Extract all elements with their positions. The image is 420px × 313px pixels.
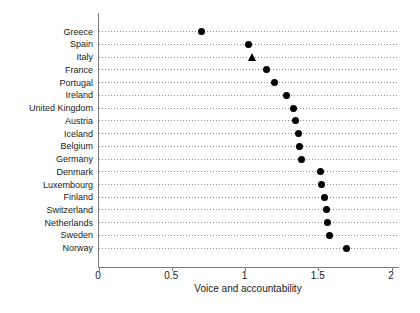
- gridline-luxembourg: [99, 184, 399, 185]
- dot-marker-finland: [321, 194, 328, 201]
- x-axis-title: Voice and accountability: [98, 283, 398, 294]
- y-axis-label-luxembourg: Luxembourg: [0, 179, 93, 191]
- dot-marker-united-kingdom: [290, 105, 297, 112]
- x-tick-label-2: 2: [374, 270, 408, 282]
- y-axis-label-iceland: Iceland: [0, 128, 93, 140]
- dot-marker-greece: [198, 28, 205, 35]
- gridline-switzerland: [99, 209, 399, 210]
- y-axis-label-italy: Italy: [0, 51, 93, 63]
- x-tick-label-1: 1: [228, 270, 262, 282]
- dot-marker-belgium: [296, 143, 303, 150]
- y-axis-label-portugal: Portugal: [0, 77, 93, 89]
- dot-marker-switzerland: [323, 206, 330, 213]
- gridline-netherlands: [99, 222, 399, 223]
- plot-area: [98, 13, 399, 268]
- gridline-france: [99, 69, 399, 70]
- dot-marker-iceland: [295, 130, 302, 137]
- dot-marker-germany: [298, 156, 305, 163]
- x-tick-label-0.5: 0.5: [154, 270, 188, 282]
- dot-marker-austria: [292, 117, 299, 124]
- gridline-norway: [99, 248, 399, 249]
- gridline-germany: [99, 159, 399, 160]
- dot-marker-france: [263, 66, 270, 73]
- y-axis-label-france: France: [0, 64, 93, 76]
- gridline-portugal: [99, 82, 399, 83]
- gridline-iceland: [99, 133, 399, 134]
- y-axis-label-united-kingdom: United Kingdom: [0, 102, 93, 114]
- dot-marker-ireland: [283, 92, 290, 99]
- y-axis-label-denmark: Denmark: [0, 166, 93, 178]
- triangle-marker-italy: [248, 53, 256, 61]
- gridline-united-kingdom: [99, 108, 399, 109]
- x-tick-label-0: 0: [81, 270, 115, 282]
- dot-marker-portugal: [271, 79, 278, 86]
- gridline-austria: [99, 120, 399, 121]
- y-axis-label-spain: Spain: [0, 38, 93, 50]
- gridline-sweden: [99, 235, 399, 236]
- dot-marker-netherlands: [324, 219, 331, 226]
- x-tick-label-1.5: 1.5: [301, 270, 335, 282]
- dot-marker-norway: [343, 245, 350, 252]
- y-axis-label-norway: Norway: [0, 242, 93, 254]
- gridline-ireland: [99, 95, 399, 96]
- y-axis-label-greece: Greece: [0, 26, 93, 38]
- y-axis-label-netherlands: Netherlands: [0, 217, 93, 229]
- y-axis-label-austria: Austria: [0, 115, 93, 127]
- dot-marker-luxembourg: [318, 181, 325, 188]
- gridline-greece: [99, 31, 399, 32]
- gridline-denmark: [99, 171, 399, 172]
- gridline-belgium: [99, 146, 399, 147]
- y-axis-label-finland: Finland: [0, 191, 93, 203]
- y-axis-label-switzerland: Switzerland: [0, 204, 93, 216]
- dot-plot-figure: Voice and accountability GreeceSpainItal…: [0, 0, 420, 313]
- y-axis-label-ireland: Ireland: [0, 89, 93, 101]
- y-axis-label-germany: Germany: [0, 153, 93, 165]
- y-axis-label-sweden: Sweden: [0, 229, 93, 241]
- dot-marker-denmark: [317, 168, 324, 175]
- dot-marker-spain: [245, 41, 252, 48]
- dot-marker-sweden: [326, 232, 333, 239]
- y-axis-label-belgium: Belgium: [0, 140, 93, 152]
- gridline-finland: [99, 197, 399, 198]
